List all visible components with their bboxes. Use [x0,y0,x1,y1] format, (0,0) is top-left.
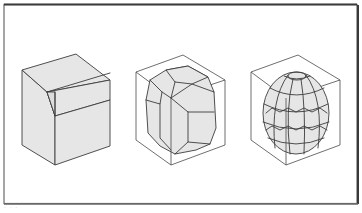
cube-with-slab [22,54,110,165]
figure-canvas [0,0,362,213]
figure-caption: · · · [4,204,18,210]
